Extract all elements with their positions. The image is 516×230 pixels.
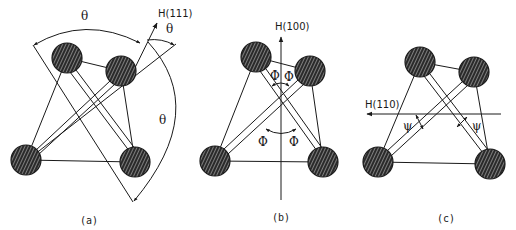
psi-arrow-left — [416, 115, 423, 129]
phi-label-1: Φ — [270, 69, 280, 83]
theta-arc-top — [34, 29, 140, 45]
panel-a: H(111) θ θ θ (a) — [11, 8, 193, 226]
atom-a-3 — [11, 145, 41, 175]
field-label-h100: H(100) — [275, 21, 310, 32]
phi-label-2: Φ — [284, 70, 294, 84]
atom-c-2 — [459, 57, 489, 87]
atom-c-4 — [475, 149, 505, 179]
atom-a-4 — [120, 147, 150, 177]
theta-arc-large — [134, 42, 176, 201]
theta-label-large: θ — [159, 113, 166, 127]
caption-b: (b) — [272, 212, 290, 223]
field-label-h110: H(110) — [365, 99, 400, 110]
panel-b: H(100) Φ Φ Φ Φ (b) — [200, 21, 338, 223]
atom-b-3 — [200, 146, 230, 176]
phi-label-3: Φ — [258, 135, 268, 149]
panel-c: H(110) ψ ψ (c) — [363, 47, 505, 224]
atom-c-3 — [363, 147, 393, 177]
caption-c: (c) — [437, 213, 455, 224]
theta-arc-small — [147, 40, 174, 45]
caption-a: (a) — [80, 215, 98, 226]
field-label-h111: H(111) — [158, 8, 193, 19]
tetrahedron-edges-a — [26, 44, 176, 202]
theta-label-small: θ — [166, 22, 173, 36]
atom-a-1 — [52, 43, 82, 73]
theta-label-top: θ — [81, 9, 88, 23]
atom-b-4 — [308, 147, 338, 177]
figure-canvas: H(111) θ θ θ (a) H(100) — [0, 0, 516, 230]
psi-label-left: ψ — [403, 119, 412, 133]
atom-b-1 — [241, 42, 271, 72]
atom-c-1 — [405, 47, 435, 77]
psi-label-right: ψ — [472, 119, 481, 133]
atom-b-2 — [295, 56, 325, 86]
phi-label-4: Φ — [289, 135, 299, 149]
atom-a-2 — [106, 56, 136, 86]
